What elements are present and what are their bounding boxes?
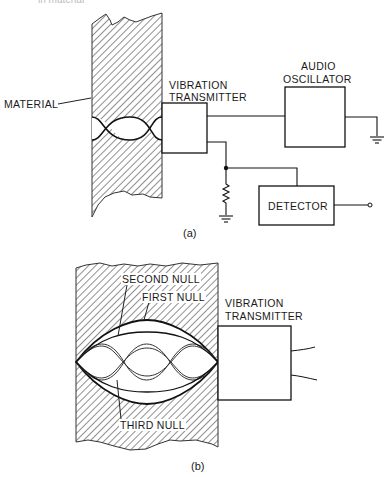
- caption-b: (b): [191, 460, 204, 472]
- caption-a: (a): [183, 227, 196, 239]
- material-label: MATERIAL: [4, 98, 58, 110]
- output-terminal-icon: [368, 203, 372, 207]
- oscillator-label-line2: OSCILLATOR: [283, 73, 352, 85]
- second-null-label: SECOND NULL: [121, 273, 201, 285]
- figure-a: [58, 13, 384, 225]
- first-null-label: FIRST NULL: [141, 291, 206, 303]
- ground-icon: [370, 137, 384, 143]
- vibration-transmitter-box-b: [218, 326, 291, 400]
- transmitter-label-b-line2: TRANSMITTER: [225, 310, 303, 322]
- material-pointer-arrow: [58, 98, 91, 104]
- transmitter-label-a-line2: TRANSMITTER: [169, 91, 247, 103]
- vibration-transmitter-box-a: [162, 103, 207, 153]
- third-null-label: THIRD NULL: [119, 419, 186, 431]
- transmitter-label-a-line1: VIBRATION: [169, 79, 228, 91]
- transmitter-label-b-line1: VIBRATION: [225, 297, 284, 309]
- resistor-icon: [223, 168, 229, 215]
- material-slab-a: [92, 13, 162, 217]
- detector-label: DETECTOR: [268, 200, 328, 212]
- ground-icon: [219, 216, 233, 222]
- oscillator-label-line1: AUDIO: [301, 60, 336, 72]
- audio-oscillator-box: [285, 87, 345, 147]
